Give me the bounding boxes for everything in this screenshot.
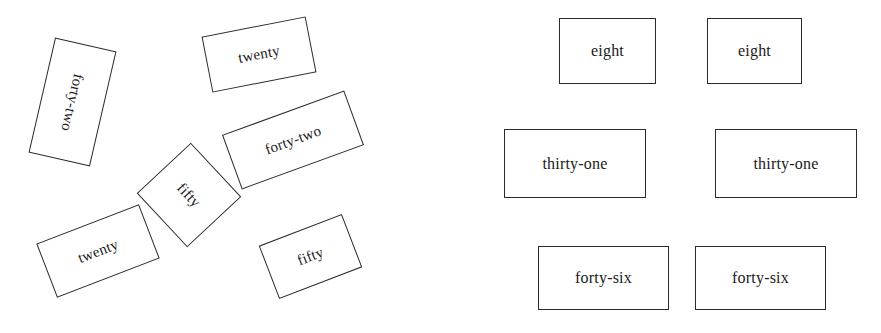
right-panel-aligned: eighteightthirty-onethirty-oneforty-sixf… — [0, 0, 881, 333]
card-label: forty-six — [575, 270, 632, 286]
card-forty-six[interactable]: forty-six — [538, 246, 669, 310]
card-thirty-one[interactable]: thirty-one — [504, 129, 646, 198]
card-forty-six[interactable]: forty-six — [695, 246, 826, 310]
card-label: eight — [591, 43, 624, 59]
card-label: eight — [738, 43, 771, 59]
figure-canvas: forty-twotwentyforty-twofiftytwentyfifty… — [0, 0, 881, 333]
card-thirty-one[interactable]: thirty-one — [715, 129, 857, 198]
card-label: thirty-one — [753, 156, 818, 172]
card-eight[interactable]: eight — [707, 18, 802, 84]
card-label: forty-six — [732, 270, 789, 286]
card-label: thirty-one — [542, 156, 607, 172]
card-eight[interactable]: eight — [559, 18, 656, 84]
